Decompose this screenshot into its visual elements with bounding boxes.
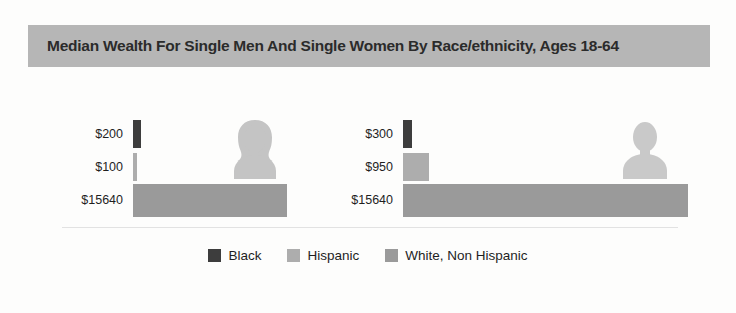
legend-label: White, Non Hispanic xyxy=(405,248,527,263)
plot-area: $200 $100 $15640 xyxy=(0,95,736,240)
bar-value-label: $15640 xyxy=(330,193,403,207)
bar-white-non-hispanic xyxy=(133,184,287,217)
baseline-rule xyxy=(62,227,678,228)
bar-row: $300 xyxy=(330,117,412,151)
bar-row: $15640 xyxy=(330,183,688,217)
bar-value-label: $300 xyxy=(330,127,403,141)
bar-hispanic xyxy=(403,153,429,181)
page-title: Median Wealth For Single Men And Single … xyxy=(47,37,619,55)
bar-value-label: $15640 xyxy=(60,193,133,207)
legend-item-white-non-hispanic: White, Non Hispanic xyxy=(385,248,527,263)
chart-title-band: Median Wealth For Single Men And Single … xyxy=(28,25,710,67)
legend-item-black: Black xyxy=(208,248,261,263)
bar-white-non-hispanic xyxy=(403,184,688,217)
chart-page: Median Wealth For Single Men And Single … xyxy=(0,0,736,313)
female-silhouette-icon xyxy=(225,117,285,183)
bar-row: $950 xyxy=(330,150,429,184)
legend-label: Black xyxy=(228,248,261,263)
legend-swatch-hispanic xyxy=(287,249,300,262)
panel-single-men: $300 $950 $15640 xyxy=(330,95,700,235)
panel-single-women: $200 $100 $15640 xyxy=(60,95,320,235)
bar-value-label: $950 xyxy=(330,160,403,174)
chart-legend: Black Hispanic White, Non Hispanic xyxy=(0,248,736,263)
bar-row: $200 xyxy=(60,117,141,151)
legend-swatch-black xyxy=(208,249,221,262)
legend-label: Hispanic xyxy=(307,248,359,263)
male-silhouette-icon xyxy=(615,117,675,183)
bar-row: $15640 xyxy=(60,183,287,217)
legend-swatch-white-non-hispanic xyxy=(385,249,398,262)
bar-value-label: $200 xyxy=(60,127,133,141)
bar-value-label: $100 xyxy=(60,160,133,174)
bar-row: $100 xyxy=(60,150,137,184)
bar-black xyxy=(133,120,141,148)
bar-hispanic xyxy=(133,153,137,181)
bar-black xyxy=(403,120,412,148)
legend-item-hispanic: Hispanic xyxy=(287,248,359,263)
